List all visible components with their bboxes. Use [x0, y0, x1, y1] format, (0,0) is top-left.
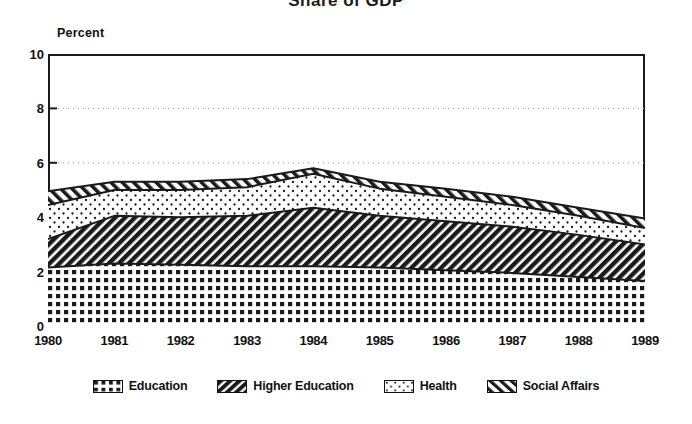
legend-swatch-health [384, 380, 414, 393]
area-bands [48, 168, 645, 326]
x-axis-tick-label: 1986 [414, 333, 478, 348]
legend-swatch-education [93, 380, 123, 393]
y-axis-tick-label: 0 [4, 320, 44, 333]
x-axis-tick-label: 1980 [16, 333, 80, 348]
legend-label: Health [420, 379, 457, 393]
legend-item-higher-education: Higher Education [217, 379, 353, 393]
y-axis-tick-labels: 0246810 [0, 0, 44, 424]
x-axis-tick-label: 1982 [149, 333, 213, 348]
legend-item-education: Education [93, 379, 188, 393]
x-axis-tick-label: 1984 [281, 333, 345, 348]
legend-item-social-affairs: Social Affairs [487, 379, 600, 393]
x-axis-tick-labels: 1980198119821983198419851986198719881989 [48, 333, 645, 355]
legend-swatch-higher-education [217, 380, 247, 393]
x-axis-tick-label: 1987 [480, 333, 544, 348]
legend-label: Social Affairs [523, 379, 600, 393]
x-axis-tick-label: 1989 [613, 333, 677, 348]
x-axis-tick-label: 1983 [215, 333, 279, 348]
chart-title: Share of GDP [0, 0, 692, 11]
stacked-area-plot [48, 54, 645, 326]
x-axis-tick-label: 1981 [82, 333, 146, 348]
y-axis-tick-label: 4 [4, 211, 44, 224]
x-axis-tick-label: 1988 [547, 333, 611, 348]
legend-item-health: Health [384, 379, 457, 393]
legend-label: Higher Education [253, 379, 353, 393]
chart-legend: EducationHigher EducationHealthSocial Af… [0, 379, 692, 393]
legend-swatch-social-affairs [487, 380, 517, 393]
y-axis-tick-label: 10 [4, 48, 44, 61]
legend-label: Education [129, 379, 188, 393]
y-axis-tick-label: 8 [4, 102, 44, 115]
y-axis-title: Percent [57, 26, 104, 40]
x-axis-tick-label: 1985 [348, 333, 412, 348]
y-axis-tick-label: 6 [4, 157, 44, 170]
y-axis-tick-label: 2 [4, 266, 44, 279]
